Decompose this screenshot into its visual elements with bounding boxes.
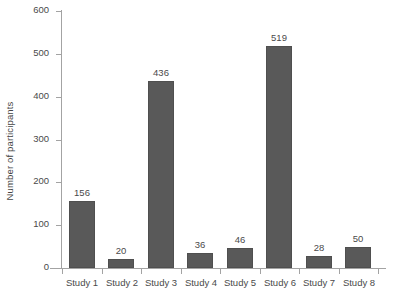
- y-tick-label: 200: [33, 175, 49, 186]
- bar: [345, 247, 371, 268]
- bar: [69, 201, 95, 268]
- bar-value-label: 156: [57, 187, 107, 198]
- bar-value-label: 46: [215, 234, 265, 245]
- bar-value-label: 519: [254, 32, 304, 43]
- x-tick-mark: [181, 269, 182, 274]
- bar: [187, 253, 213, 268]
- y-tick-mark: [56, 182, 62, 183]
- y-tick-label: 0: [44, 261, 49, 272]
- y-tick-mark: [56, 54, 62, 55]
- bar-value-label: 50: [333, 233, 383, 244]
- x-tick-mark: [141, 269, 142, 274]
- bar-value-label: 436: [136, 67, 186, 78]
- x-tick-mark: [220, 269, 221, 274]
- y-tick-mark: [56, 140, 62, 141]
- y-tick-mark: [56, 225, 62, 226]
- bar: [306, 256, 332, 268]
- y-tick-label: 500: [33, 47, 49, 58]
- y-tick-label: 400: [33, 90, 49, 101]
- y-axis-title: Number of participants: [0, 0, 18, 302]
- y-tick-mark: [56, 97, 62, 98]
- x-tick-mark: [339, 269, 340, 274]
- bar: [148, 81, 174, 268]
- bar-value-label: 20: [96, 245, 146, 256]
- x-tick-mark: [62, 269, 63, 274]
- y-tick-mark: [56, 11, 62, 12]
- bar: [227, 248, 253, 268]
- y-tick-label: 300: [33, 133, 49, 144]
- x-tick-mark: [260, 269, 261, 274]
- bar: [108, 259, 134, 268]
- x-category-label: Study 8: [335, 277, 383, 288]
- x-axis-line: [50, 268, 386, 269]
- y-tick-label: 600: [33, 4, 49, 15]
- x-tick-mark: [378, 269, 379, 274]
- bar-chart: Number of participants 01002003004005006…: [0, 0, 395, 302]
- x-tick-mark: [102, 269, 103, 274]
- bar: [266, 46, 292, 268]
- x-tick-mark: [299, 269, 300, 274]
- y-tick-label: 100: [33, 218, 49, 229]
